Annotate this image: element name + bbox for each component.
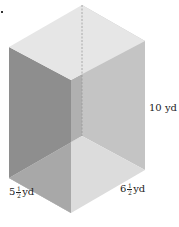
width-fraction: 12 bbox=[16, 186, 21, 199]
width-label: 512yd bbox=[9, 186, 34, 199]
depth-fraction: 12 bbox=[127, 183, 132, 196]
height-label: 10 yd bbox=[149, 103, 177, 113]
inner-left-face bbox=[71, 74, 82, 142]
depth-whole: 6 bbox=[120, 183, 126, 194]
depth-label: 612yd bbox=[120, 183, 145, 196]
depth-unit: yd bbox=[133, 183, 145, 194]
width-denominator: 2 bbox=[17, 193, 21, 199]
depth-denominator: 2 bbox=[128, 190, 132, 196]
width-unit: yd bbox=[22, 186, 34, 197]
width-whole: 5 bbox=[9, 186, 15, 197]
marker-dot bbox=[1, 11, 3, 13]
